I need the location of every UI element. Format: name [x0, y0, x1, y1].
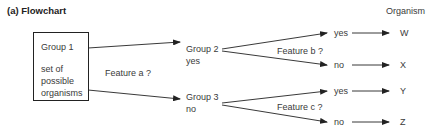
group1-label: Group 1 — [41, 42, 74, 53]
group1-desc-line3: organisms — [41, 88, 83, 99]
feature-b-question: Feature b ? — [277, 46, 323, 57]
organism-z: Z — [400, 117, 406, 128]
group2-label: Group 2 — [186, 44, 219, 55]
group1-desc-line2: possible — [41, 76, 74, 87]
organism-x: X — [400, 60, 406, 71]
leaf-answer-y: yes — [334, 86, 348, 97]
feature-c-question: Feature c ? — [277, 102, 323, 113]
group3-answer: no — [186, 104, 196, 115]
leaf-answer-w: yes — [334, 28, 348, 39]
group1-desc-line1: set of — [41, 64, 63, 75]
organism-w: W — [400, 28, 409, 39]
organism-y: Y — [400, 86, 406, 97]
leaf-answer-x: no — [334, 60, 344, 71]
group3-label: Group 3 — [186, 92, 219, 103]
leaf-answer-z: no — [334, 117, 344, 128]
feature-a-question: Feature a ? — [105, 68, 151, 79]
group2-answer: yes — [186, 56, 200, 67]
